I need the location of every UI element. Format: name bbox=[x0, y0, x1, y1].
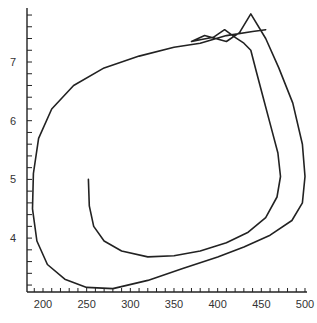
x-tick-label: 400 bbox=[208, 298, 226, 310]
chart-canvas: 2002503003504004505004567 bbox=[0, 0, 317, 323]
y-tick-label: 6 bbox=[10, 115, 16, 127]
phase-plot-chart: 2002503003504004505004567 bbox=[0, 0, 317, 323]
x-tick-label: 350 bbox=[165, 298, 183, 310]
y-tick-label: 7 bbox=[10, 56, 16, 68]
x-tick-label: 300 bbox=[121, 298, 139, 310]
x-tick-label: 250 bbox=[77, 298, 95, 310]
axis-ticks bbox=[27, 15, 305, 292]
x-tick-label: 200 bbox=[34, 298, 52, 310]
x-tick-label: 500 bbox=[296, 298, 314, 310]
x-tick-label: 450 bbox=[252, 298, 270, 310]
y-tick-label: 4 bbox=[10, 232, 16, 244]
y-tick-label: 5 bbox=[10, 173, 16, 185]
trajectory-line bbox=[33, 14, 306, 289]
axes bbox=[27, 8, 307, 292]
